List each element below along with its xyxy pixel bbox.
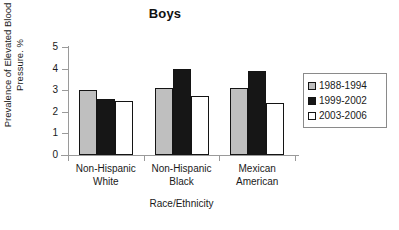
y-axis-tick-label: 2 bbox=[44, 107, 58, 117]
bar-1999-2002-American bbox=[248, 71, 266, 155]
chart-figure: Boys Prevalence of Elevated Blood Pressu… bbox=[0, 0, 399, 230]
bar-1999-2002-Black bbox=[173, 69, 191, 155]
category-label-line2: American bbox=[211, 176, 303, 189]
x-axis-separator bbox=[144, 156, 145, 161]
plot-area bbox=[68, 47, 295, 155]
y-axis-tick-label: 3 bbox=[44, 85, 58, 95]
y-axis-tick-label: 0 bbox=[44, 150, 58, 160]
legend-item-2003-2006[interactable]: 2003-2006 bbox=[308, 108, 383, 123]
chart-title: Boys bbox=[0, 6, 330, 21]
bar-1988-1994-White bbox=[79, 90, 97, 155]
y-axis-tick-label: 1 bbox=[44, 128, 58, 138]
x-axis-title: Race/Ethnicity bbox=[68, 198, 295, 209]
legend-label: 1999-2002 bbox=[319, 96, 367, 106]
bar-2003-2006-Black bbox=[191, 96, 209, 155]
legend-swatch-icon bbox=[308, 97, 316, 105]
legend-item-1999-2002[interactable]: 1999-2002 bbox=[308, 93, 383, 108]
y-axis-tick-label: 5 bbox=[44, 42, 58, 52]
bar-2003-2006-American bbox=[266, 103, 284, 155]
legend-swatch-icon bbox=[308, 82, 316, 90]
bar-1988-1994-Black bbox=[155, 88, 173, 155]
y-axis-title-line1: Prevalence of Elevated Blood bbox=[2, 3, 13, 128]
legend-label: 2003-2006 bbox=[319, 111, 367, 121]
bar-1988-1994-American bbox=[230, 88, 248, 155]
y-axis-title: Prevalence of Elevated Blood Pressure. % bbox=[2, 0, 36, 140]
legend-swatch-icon bbox=[308, 112, 316, 120]
bar-1999-2002-White bbox=[97, 99, 115, 155]
legend: 1988-19941999-20022003-2006 bbox=[303, 73, 387, 128]
legend-item-1988-1994[interactable]: 1988-1994 bbox=[308, 78, 383, 93]
legend-label: 1988-1994 bbox=[319, 81, 367, 91]
x-axis-separator bbox=[295, 156, 296, 161]
y-axis-tick-label: 4 bbox=[44, 64, 58, 74]
y-axis-title-line2: Pressure. % bbox=[14, 0, 26, 140]
x-axis-separator bbox=[68, 156, 69, 161]
category-label-line1: Mexican bbox=[211, 163, 303, 176]
x-axis-separator bbox=[219, 156, 220, 161]
x-axis-line bbox=[61, 155, 299, 156]
bar-2003-2006-White bbox=[115, 101, 133, 155]
category-label: MexicanAmerican bbox=[211, 163, 303, 188]
